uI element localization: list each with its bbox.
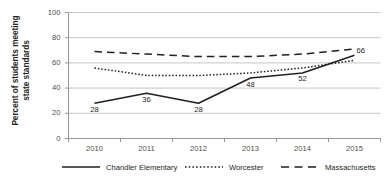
x-tick-label: 2012	[173, 144, 225, 153]
line-chart: Percent of students meeting state standa…	[0, 0, 392, 185]
y-axis-title: Percent of students meeting state standa…	[10, 4, 31, 138]
legend-swatch-solid-icon	[62, 163, 100, 171]
legend-label-worcester: Worcester	[229, 163, 263, 172]
data-point-label: 28	[85, 105, 105, 114]
x-tick-label: 2010	[69, 144, 121, 153]
y-axis-title-line1: Percent of students meeting	[10, 4, 21, 138]
legend-swatch-dashed-icon	[281, 163, 319, 171]
gridlines	[69, 13, 381, 139]
series-lines	[95, 49, 355, 103]
data-point-label: 66	[357, 46, 377, 55]
plot-area	[0, 0, 392, 185]
y-axis-title-line2: state standards	[20, 4, 31, 138]
y-tick-label: 60	[39, 58, 61, 67]
y-tick-label: 20	[39, 108, 61, 117]
y-tick-label: 100	[39, 8, 61, 17]
series-line	[95, 49, 355, 57]
chart-legend: Chandler Elementary Worcester Massachuse…	[0, 160, 392, 176]
legend-label-chandler-elementary: Chandler Elementary	[106, 163, 177, 172]
y-tick-label: 0	[39, 134, 61, 143]
data-point-label: 28	[189, 105, 209, 114]
y-tick-label: 80	[39, 33, 61, 42]
x-tick-label: 2013	[225, 144, 277, 153]
legend-item-chandler-elementary: Chandler Elementary	[62, 160, 177, 174]
x-tick-label: 2011	[121, 144, 173, 153]
data-point-label: 36	[137, 95, 157, 104]
x-tick-label: 2014	[277, 144, 329, 153]
axis-ticks	[65, 13, 381, 143]
legend-label-massachusetts: Massachusetts	[325, 163, 376, 172]
legend-item-massachusetts: Massachusetts	[281, 160, 376, 174]
y-tick-label: 40	[39, 83, 61, 92]
x-tick-label: 2015	[329, 144, 381, 153]
data-point-label: 48	[241, 80, 261, 89]
legend-item-worcester: Worcester	[185, 160, 263, 174]
data-point-label: 52	[293, 74, 313, 83]
legend-swatch-dotted-icon	[185, 163, 223, 171]
